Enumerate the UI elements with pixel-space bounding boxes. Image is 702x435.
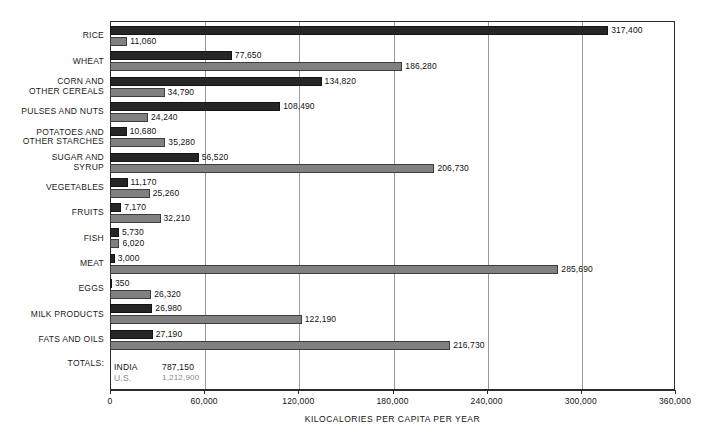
bar-value-label: 108,490 <box>283 102 314 111</box>
category-label: MEAT <box>0 259 104 269</box>
bar-value-label: 206,730 <box>437 164 468 173</box>
bar-india <box>110 77 322 86</box>
category-label: SUGAR AND SYRUP <box>0 153 104 172</box>
bar-value-label: 350 <box>115 279 129 288</box>
bar-india <box>110 254 115 263</box>
bar-us <box>110 239 119 248</box>
bar-group: 11,17025,260 <box>110 178 675 200</box>
x-axis-tick-label: 240,000 <box>471 396 503 406</box>
bar-value-label: 77,650 <box>235 51 262 60</box>
category-label: MILK PRODUCTS <box>0 310 104 320</box>
grouped-bar-chart: RICEWHEATCORN AND OTHER CEREALSPULSES AN… <box>0 0 702 435</box>
bar-india <box>110 178 128 187</box>
totals-us-key: U.S. <box>114 373 131 383</box>
bar-group: 77,650186,280 <box>110 51 675 73</box>
bar-us <box>110 315 302 324</box>
bar-value-label: 285,690 <box>561 265 592 274</box>
bar-us <box>110 138 165 147</box>
category-axis-labels: RICEWHEATCORN AND OTHER CEREALSPULSES AN… <box>0 21 104 390</box>
bar-value-label: 35,280 <box>168 138 195 147</box>
bar-india <box>110 102 280 111</box>
bar-us <box>110 62 402 71</box>
x-axis-tick <box>204 390 205 394</box>
x-axis-tick <box>393 390 394 394</box>
bar-india <box>110 330 153 339</box>
x-axis-tick-label: 120,000 <box>282 396 314 406</box>
category-label: PULSES AND NUTS <box>0 107 104 117</box>
x-axis-tick-label: 360,000 <box>659 396 691 406</box>
totals-india-value: 787,150 <box>162 362 194 372</box>
bar-group: 134,82034,790 <box>110 77 675 99</box>
bar-us <box>110 88 165 97</box>
bar-india <box>110 51 232 60</box>
x-axis-tick <box>487 390 488 394</box>
bar-group: 35026,320 <box>110 279 675 301</box>
bar-value-label: 134,820 <box>325 77 356 86</box>
bar-india <box>110 304 152 313</box>
totals-india-key: INDIA <box>114 362 138 372</box>
x-axis-title: KILOCALORIES PER CAPITA PER YEAR <box>110 414 675 424</box>
bar-group: 108,49024,240 <box>110 102 675 124</box>
x-axis-tick-label: 300,000 <box>565 396 597 406</box>
x-axis-tick <box>298 390 299 394</box>
bar-value-label: 122,190 <box>305 315 336 324</box>
category-label: VEGETABLES <box>0 183 104 193</box>
bar-value-label: 216,730 <box>453 341 484 350</box>
bar-us <box>110 214 161 223</box>
x-axis-tick-label: 180,000 <box>376 396 408 406</box>
x-axis-tick <box>110 390 111 394</box>
bar-value-label: 10,680 <box>130 127 157 136</box>
bar-value-label: 26,320 <box>154 290 181 299</box>
bar-value-label: 317,400 <box>611 26 642 35</box>
bar-value-label: 25,260 <box>153 189 180 198</box>
bar-group: 3,000285,690 <box>110 254 675 276</box>
bar-value-label: 11,170 <box>131 178 157 187</box>
x-axis-tick <box>675 390 676 394</box>
category-label: FISH <box>0 234 104 244</box>
bar-group: 10,68035,280 <box>110 127 675 149</box>
totals-us-value: 1,212,900 <box>162 373 199 383</box>
bar-value-label: 7,170 <box>124 203 146 212</box>
bar-value-label: 32,210 <box>164 214 191 223</box>
bar-india <box>110 26 608 35</box>
bar-india <box>110 127 127 136</box>
x-axis-tick-label: 60,000 <box>191 396 218 406</box>
bar-value-label: 5,730 <box>122 228 144 237</box>
bar-value-label: 3,000 <box>118 254 140 263</box>
bar-group: 5,7306,020 <box>110 228 675 250</box>
bar-us <box>110 113 148 122</box>
bar-india <box>110 279 112 288</box>
category-label: RICE <box>0 31 104 41</box>
bar-value-label: 11,060 <box>130 37 156 46</box>
category-label: FRUITS <box>0 208 104 218</box>
category-label: EGGS <box>0 284 104 294</box>
x-axis-tick <box>581 390 582 394</box>
category-label: WHEAT <box>0 57 104 67</box>
bar-group: 26,980122,190 <box>110 304 675 326</box>
category-label: POTATOES AND OTHER STARCHES <box>0 128 104 147</box>
bar-group: 317,40011,060 <box>110 26 675 48</box>
bar-group: 27,190216,730 <box>110 330 675 352</box>
bars-layer: 317,40011,06077,650186,280134,82034,7901… <box>110 21 675 390</box>
bar-value-label: 34,790 <box>168 88 195 97</box>
bar-value-label: 24,240 <box>151 113 178 122</box>
totals-legend: INDIA 787,150 U.S. 1,212,900 <box>114 362 264 386</box>
category-label: CORN AND OTHER CEREALS <box>0 77 104 96</box>
bar-us <box>110 37 127 46</box>
x-axis-tick-label: 0 <box>108 396 113 406</box>
bar-us <box>110 189 150 198</box>
bar-value-label: 26,980 <box>155 304 182 313</box>
bar-us <box>110 265 558 274</box>
bar-india <box>110 228 119 237</box>
bar-value-label: 56,520 <box>202 153 229 162</box>
bar-us <box>110 164 434 173</box>
totals-row-label: TOTALS: <box>0 359 104 369</box>
category-label: FATS AND OILS <box>0 335 104 345</box>
bar-group: 56,520206,730 <box>110 153 675 175</box>
bar-value-label: 27,190 <box>156 330 183 339</box>
bar-value-label: 6,020 <box>122 239 144 248</box>
bar-group: 7,17032,210 <box>110 203 675 225</box>
bar-us <box>110 341 450 350</box>
bar-us <box>110 290 151 299</box>
bar-value-label: 186,280 <box>405 62 436 71</box>
